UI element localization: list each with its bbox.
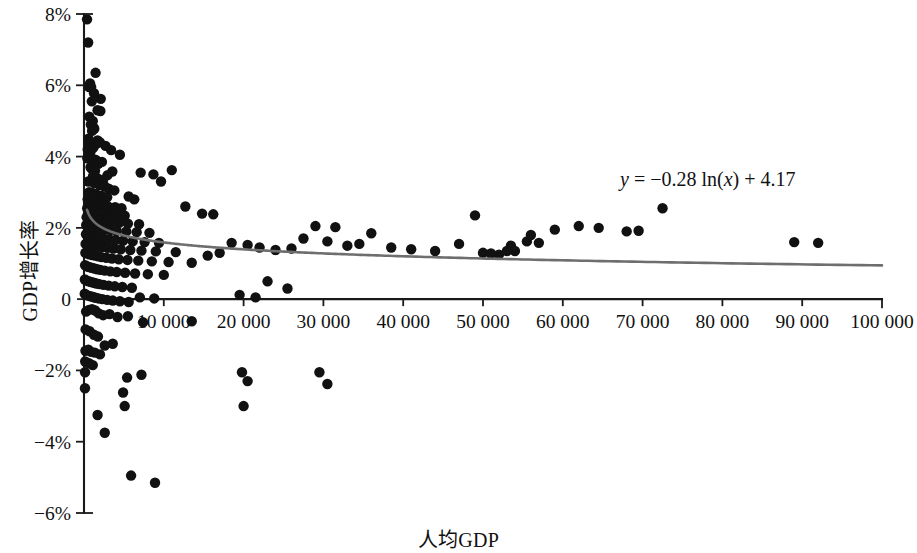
data-point [136, 370, 146, 380]
data-point [93, 331, 103, 341]
data-point [657, 203, 667, 213]
data-point [202, 250, 212, 260]
data-point [242, 376, 252, 386]
data-point [96, 94, 106, 104]
data-point [80, 383, 90, 393]
data-point [90, 68, 100, 78]
data-point [366, 228, 376, 238]
x-axis-tick-labels: 10 00020 00030 00040 00050 00060 00070 0… [137, 311, 914, 332]
data-point [95, 106, 105, 116]
data-point [322, 379, 332, 389]
data-point [208, 209, 218, 219]
y-axis-tick-label: −4% [34, 432, 71, 453]
y-axis-tick-label: −2% [34, 360, 71, 381]
data-point [282, 283, 292, 293]
x-axis-tick-label: 70 000 [616, 311, 670, 332]
data-point [550, 224, 560, 234]
data-point [100, 428, 110, 438]
data-point [92, 410, 102, 420]
data-point [151, 246, 161, 256]
data-point [197, 208, 207, 218]
data-point [133, 255, 143, 265]
x-axis-tick-label: 90 000 [775, 311, 829, 332]
data-point [621, 226, 631, 236]
x-axis-tick-label: 80 000 [696, 311, 750, 332]
data-point [95, 349, 105, 359]
x-axis-title: 人均GDP [0, 524, 917, 553]
data-point [454, 239, 464, 249]
data-point [486, 248, 496, 258]
data-point [106, 145, 116, 155]
data-point [120, 268, 130, 278]
y-axis-tick-label: −6% [34, 503, 71, 524]
data-point [138, 317, 148, 327]
data-point [237, 367, 247, 377]
data-point [171, 247, 181, 257]
data-point [226, 238, 236, 248]
y-axis-tick-label: 0 [61, 289, 71, 310]
data-point [123, 311, 133, 321]
data-point [130, 268, 140, 278]
data-point [159, 270, 169, 280]
chart-figure: 8%6%4%2%0−2%−4%−6% 10 00020 00030 00040 … [0, 0, 917, 553]
data-point [118, 387, 128, 397]
data-point [250, 292, 260, 302]
data-point [150, 478, 160, 488]
data-point [430, 246, 440, 256]
data-point [122, 372, 132, 382]
data-point [310, 221, 320, 231]
data-point [136, 245, 146, 255]
data-point [80, 367, 90, 377]
data-point [135, 167, 145, 177]
equation-rhs-prefix: −0.28 ln( [650, 168, 724, 190]
data-point [83, 37, 93, 47]
x-axis-tick-label: 60 000 [536, 311, 590, 332]
data-point [234, 290, 244, 300]
data-point [126, 470, 136, 480]
data-point [187, 258, 197, 268]
trendline-equation-annotation: y = −0.28 ln(x) + 4.17 [620, 168, 796, 191]
data-point [813, 238, 823, 248]
equation-operator: = [629, 168, 650, 190]
data-point [143, 269, 153, 279]
data-point [87, 96, 97, 106]
data-point [148, 169, 158, 179]
data-point [144, 228, 154, 238]
data-point [594, 223, 604, 233]
data-point [386, 242, 396, 252]
x-axis-tick-label: 50 000 [456, 311, 510, 332]
data-point [238, 401, 248, 411]
data-point [125, 245, 135, 255]
data-point [115, 150, 125, 160]
data-point [342, 240, 352, 250]
data-point [322, 236, 332, 246]
data-point [470, 210, 480, 220]
data-point [574, 221, 584, 231]
data-point [108, 339, 118, 349]
data-point [534, 238, 544, 248]
data-point [156, 176, 166, 186]
y-axis-tick-label: 4% [45, 147, 71, 168]
data-point-group [80, 14, 824, 488]
data-point [149, 293, 159, 303]
data-point [127, 283, 137, 293]
data-point [120, 401, 130, 411]
data-point [167, 165, 177, 175]
data-point [147, 256, 157, 266]
data-point [82, 14, 92, 24]
x-axis-tick-label: 100 000 [850, 311, 913, 332]
data-point [502, 246, 512, 256]
data-point [187, 316, 197, 326]
data-point [789, 237, 799, 247]
x-axis-tick-label: 20 000 [217, 311, 271, 332]
equation-variable: x [724, 168, 733, 190]
scatter-plot-svg: 8%6%4%2%0−2%−4%−6% 10 00020 00030 00040 … [0, 0, 917, 553]
y-axis-tick-label: 8% [45, 4, 71, 25]
data-point [88, 360, 98, 370]
data-point [123, 297, 133, 307]
data-point [633, 226, 643, 236]
x-axis-tick-group [164, 299, 882, 308]
data-point [180, 201, 190, 211]
data-point [122, 255, 132, 265]
data-point [330, 222, 340, 232]
